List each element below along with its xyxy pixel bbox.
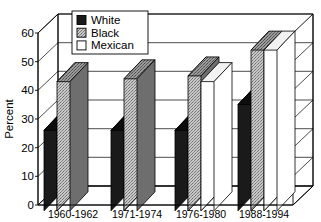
legend-entry-white[interactable]: White	[77, 14, 120, 26]
x-tick-label-3: 1976-1980	[176, 208, 226, 220]
bar-group-1971-1974	[111, 60, 155, 211]
legend-label-white: White	[91, 14, 120, 26]
bar-group-1988-1994	[238, 31, 295, 211]
y-tick-label-30: 30	[21, 113, 34, 125]
x-tick-label-4: 1988-1994	[239, 208, 289, 220]
legend-label-black: Black	[91, 27, 119, 39]
legend-swatch-black-icon	[77, 28, 86, 37]
x-tick-label-1: 1960-1962	[48, 208, 98, 220]
y-tick-label-40: 40	[21, 84, 34, 96]
y-tick-label-60: 60	[21, 27, 34, 39]
y-axis-title: Percent	[3, 98, 15, 138]
bar-group-1960-1962	[44, 63, 88, 211]
legend-entry-black[interactable]: Black	[77, 27, 119, 39]
y-axis-ticks: 0 10 20 30 40 50 60	[21, 27, 34, 211]
legend-label-mexican: Mexican	[91, 39, 134, 51]
y-tick-label-0: 0	[28, 199, 34, 211]
bar-black-1960-1962	[57, 63, 88, 211]
y-tick-label-10: 10	[21, 170, 34, 182]
bar-group-1976-1980	[175, 57, 232, 211]
x-tick-label-2: 1971-1974	[112, 208, 162, 220]
bar-black-1971-1974	[124, 60, 155, 211]
legend-entry-mexican[interactable]: Mexican	[77, 39, 134, 51]
chart-canvas: 0 10 20 30 40 50 60 Percent	[0, 0, 321, 222]
y-tick-label-50: 50	[21, 56, 34, 68]
legend: White Black Mexican	[72, 11, 148, 54]
legend-swatch-white-icon	[77, 16, 86, 25]
bar-mexican-1976-1980	[201, 63, 232, 211]
legend-swatch-mexican-icon	[77, 41, 86, 50]
x-axis-ticks: 1960-1962 1971-1974 1976-1980 1988-1994	[48, 208, 289, 220]
y-tick-label-20: 20	[21, 142, 34, 154]
bar-mexican-1988-1994	[264, 31, 295, 211]
bar-chart: 0 10 20 30 40 50 60 Percent	[0, 0, 321, 222]
